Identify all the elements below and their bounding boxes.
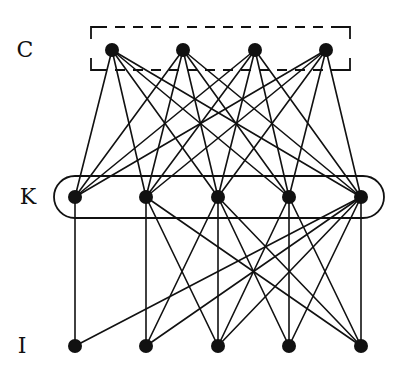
dashed-box-corner [340, 27, 350, 39]
node-c3 [248, 43, 262, 57]
layer-label-i: I [18, 335, 27, 357]
node-i2 [139, 339, 153, 353]
layer-c-dashed-box [91, 27, 350, 70]
node-c2 [176, 43, 190, 57]
dashed-box-corner [340, 58, 350, 70]
graph-canvas [0, 0, 398, 367]
layer-groups [54, 27, 384, 218]
node-i1 [68, 339, 82, 353]
node-i3 [211, 339, 225, 353]
edge-c4-k5 [326, 50, 361, 197]
node-c4 [319, 43, 333, 57]
node-k4 [282, 190, 296, 204]
node-k1 [68, 190, 82, 204]
node-c1 [105, 43, 119, 57]
layer-label-c: C [17, 39, 34, 61]
node-k2 [139, 190, 153, 204]
edge-c4-k2 [146, 50, 326, 197]
dashed-box-corner [91, 27, 101, 39]
edge-c2-k1 [75, 50, 183, 197]
dashed-box-corner [91, 58, 101, 70]
edge-c4-k1 [75, 50, 326, 197]
layered-graph-diagram: C K I [0, 0, 398, 367]
edge-c4-k4 [289, 50, 326, 197]
node-i5 [354, 339, 368, 353]
edge-c4-k3 [218, 50, 326, 197]
node-k5 [354, 190, 368, 204]
layer-label-k: K [20, 186, 36, 208]
edge-c3-k1 [75, 50, 255, 197]
node-i4 [282, 339, 296, 353]
edge-c1-k1 [75, 50, 112, 197]
node-k3 [211, 190, 225, 204]
